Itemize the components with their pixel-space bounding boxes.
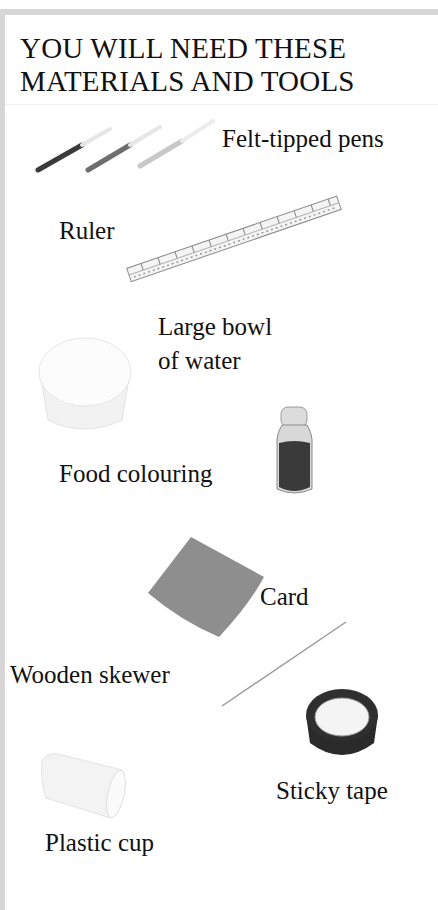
frame-border-top [0,9,438,15]
label-large-bowl: Large bowl of water [158,310,272,378]
page-title: YOU WILL NEED THESE MATERIALS AND TOOLS [20,32,355,98]
title-line-2: MATERIALS AND TOOLS [20,65,355,97]
title-divider [5,104,438,105]
label-food-colouring: Food colouring [59,459,212,489]
title-line-1: YOU WILL NEED THESE [20,32,346,64]
frame-border-left [0,9,5,910]
tape-roll-icon [302,685,382,765]
label-ruler: Ruler [59,216,115,246]
felt-tip-pens-icon [30,115,220,175]
label-wooden-skewer: Wooden skewer [10,660,170,690]
plastic-cup-icon [38,750,133,822]
label-sticky-tape: Sticky tape [276,776,388,806]
ruler-icon [125,195,350,290]
label-card: Card [260,582,309,612]
label-felt-tipped-pens: Felt-tipped pens [222,124,384,154]
label-plastic-cup: Plastic cup [45,828,154,858]
bowl-icon [34,334,136,444]
bottle-icon [272,405,318,500]
